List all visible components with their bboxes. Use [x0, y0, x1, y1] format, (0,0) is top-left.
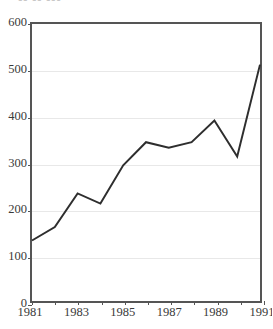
data-series-svg — [32, 24, 260, 301]
x-tick-label: 1985 — [110, 305, 135, 319]
y-tick-label: 100 — [8, 250, 27, 263]
chart-title-cropped: ▪▪ ▪▪ ▪▪▪ — [18, 0, 138, 6]
x-tick-label: 1981 — [18, 305, 43, 319]
y-tick-label: 300 — [8, 157, 27, 170]
y-tick-label: 200 — [8, 203, 27, 216]
y-axis-labels: 0100200300400500600 — [0, 0, 27, 329]
y-tick-label: 500 — [8, 63, 27, 76]
chart-title-text: ▪▪ ▪▪ ▪▪▪ — [18, 0, 138, 5]
line-chart-figure: ▪▪ ▪▪ ▪▪▪ 0100200300400500600 1981198319… — [0, 0, 272, 329]
y-tick-label: 400 — [8, 110, 27, 123]
x-tick-label: 1991 — [250, 305, 273, 319]
x-tick-label: 1983 — [64, 305, 89, 319]
y-tick-label: 600 — [8, 16, 27, 29]
data-line-series-1 — [32, 65, 260, 241]
x-tick-label: 1989 — [203, 305, 228, 319]
plot-area — [30, 22, 262, 303]
x-axis-labels: 198119831985198719891991 — [0, 305, 272, 329]
x-tick-label: 1987 — [157, 305, 182, 319]
